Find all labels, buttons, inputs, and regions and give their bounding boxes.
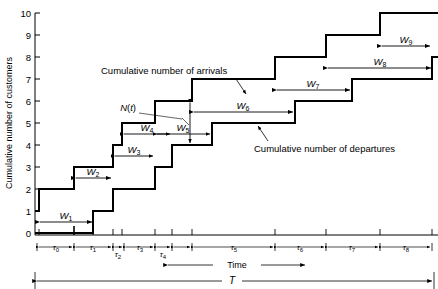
w8-label: W8 xyxy=(374,56,387,68)
tau-5-label: τ5 xyxy=(231,243,238,253)
w9-measure: W9 xyxy=(382,34,430,46)
y-tick-5: 5 xyxy=(26,118,31,129)
w7-measure: W7 xyxy=(277,78,350,90)
tau-7-label: τ7 xyxy=(349,243,356,253)
total-time-label: T xyxy=(229,275,236,286)
queueing-diagram: 10 9 8 7 6 5 4 3 2 1 0 Cumulative number… xyxy=(0,0,438,289)
time-label: Time xyxy=(227,260,247,270)
y-tick-2: 2 xyxy=(26,184,31,195)
tau-4-label: τ4 xyxy=(160,250,167,260)
nt-label: N(t) xyxy=(120,102,136,113)
tau-3-label: τ3 xyxy=(137,243,144,253)
departures-leader-line xyxy=(258,126,268,141)
w1-label: W1 xyxy=(60,210,73,222)
w7-label: W7 xyxy=(307,78,320,90)
y-axis-title: Cumulative number of customers xyxy=(4,56,14,189)
w6-label: W6 xyxy=(237,100,250,112)
tau-2-label: τ2 xyxy=(115,250,122,260)
w6-measure: W6 xyxy=(194,100,293,112)
y-tick-0: 0 xyxy=(26,228,31,239)
tau-6-label: τ6 xyxy=(297,243,304,253)
x-axis xyxy=(35,226,438,235)
tau-1-label: τ1 xyxy=(90,243,97,253)
tau-8-label: τ8 xyxy=(403,243,410,253)
y-tick-10: 10 xyxy=(20,8,31,19)
y-tick-6: 6 xyxy=(26,96,31,107)
y-tick-7: 7 xyxy=(26,74,31,85)
w1-measure: W1 xyxy=(40,210,92,222)
arrivals-leader-line xyxy=(236,79,246,94)
nt-leader-line xyxy=(139,113,182,119)
tau-0-label: τ0 xyxy=(53,243,60,253)
y-tick-8: 8 xyxy=(26,52,31,63)
y-tick-9: 9 xyxy=(26,30,31,41)
departures-annotation: Cumulative number of departures xyxy=(254,143,395,154)
w5-measure: W5 xyxy=(157,122,210,134)
w8-measure: W8 xyxy=(328,56,431,68)
y-tick-1: 1 xyxy=(26,206,31,217)
w3-label: W3 xyxy=(128,144,141,156)
y-tick-4: 4 xyxy=(26,140,31,151)
w9-label: W9 xyxy=(400,34,413,46)
arrivals-annotation: Cumulative number of arrivals xyxy=(101,65,227,76)
figure-container: 10 9 8 7 6 5 4 3 2 1 0 Cumulative number… xyxy=(0,0,438,289)
y-tick-3: 3 xyxy=(26,162,31,173)
